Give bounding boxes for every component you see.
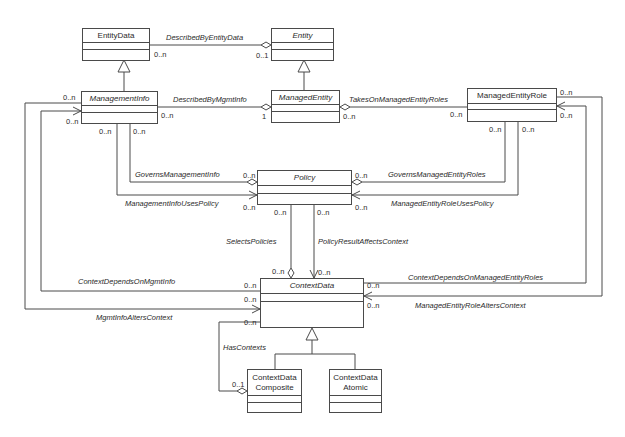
class-name: ManagedEntityRole — [468, 89, 556, 104]
class-name: Entity — [272, 29, 333, 43]
class-management-info[interactable]: ManagementInfo — [81, 91, 158, 124]
multiplicity: 0..n — [560, 111, 573, 120]
generalization-triangle-icon — [306, 328, 318, 340]
multiplicity: 0..n — [318, 268, 331, 277]
assoc-label: ManagedEntityRoleAltersContext — [415, 301, 525, 310]
multiplicity: 0..n — [244, 295, 257, 304]
multiplicity: 0..n — [272, 267, 285, 276]
multiplicity: 0..1 — [232, 380, 245, 389]
multiplicity: 0..n — [355, 171, 368, 180]
multiplicity: 0..n — [367, 281, 380, 290]
multiplicity: 0..n — [243, 171, 256, 180]
assoc-label: HasContexts — [223, 343, 266, 352]
class-name: Policy — [258, 171, 351, 186]
multiplicity: 0..n — [243, 203, 256, 212]
generalization-triangle-icon — [298, 60, 310, 72]
multiplicity: 0..n — [244, 318, 257, 327]
assoc-label: GovernsManagedEntityRoles — [388, 170, 486, 179]
class-managed-entity-role[interactable]: ManagedEntityRole — [467, 88, 557, 122]
assoc-label: TakesOnManagedEntityRoles — [349, 95, 448, 104]
multiplicity: 0..n — [244, 281, 257, 290]
multiplicity: 0..n — [489, 125, 502, 134]
class-name: EntityData — [83, 29, 149, 43]
assoc-label: MgmtInfoAltersContext — [96, 313, 172, 322]
multiplicity: 0..n — [343, 112, 356, 121]
multiplicity: 0..n — [274, 208, 287, 217]
generalization-triangle-icon — [118, 60, 130, 72]
multiplicity: 0..n — [63, 93, 76, 102]
multiplicity: 0..n — [367, 301, 380, 310]
class-name: ContextData Composite — [248, 370, 301, 396]
class-context-data-atomic[interactable]: ContextData Atomic — [329, 369, 382, 413]
assoc-label: PolicyResultAffectsContext — [318, 237, 408, 246]
class-name: ContextData — [261, 279, 363, 294]
multiplicity: 0..1 — [256, 51, 269, 60]
assoc-label: DescribedByEntityData — [166, 33, 243, 42]
multiplicity: 0..n — [66, 117, 79, 126]
multiplicity: 0..n — [560, 88, 573, 97]
assoc-label: ContextDependsOnMgmtInfo — [78, 277, 175, 286]
class-policy[interactable]: Policy — [257, 170, 352, 205]
class-entity[interactable]: Entity — [271, 28, 334, 61]
assoc-label: ManagedEntityRoleUsesPolicy — [391, 199, 494, 208]
multiplicity: 0..n — [133, 127, 146, 136]
class-name: ContextData Atomic — [330, 370, 381, 396]
diagram-connectors — [0, 0, 625, 437]
multiplicity: 0..n — [161, 111, 174, 120]
aggregation-diamond-icon — [261, 42, 271, 48]
class-context-data[interactable]: ContextData — [260, 278, 364, 328]
class-entity-data[interactable]: EntityData — [82, 28, 150, 61]
multiplicity: 0..n — [99, 127, 112, 136]
multiplicity: 0..n — [154, 50, 167, 59]
multiplicity: 1 — [262, 112, 266, 121]
assoc-label: SelectsPolicies — [226, 237, 276, 246]
class-context-data-composite[interactable]: ContextData Composite — [247, 369, 302, 413]
class-managed-entity[interactable]: ManagedEntity — [271, 90, 340, 123]
assoc-label: DescribedByMgmtInfo — [173, 95, 247, 104]
aggregation-diamond-icon — [340, 104, 350, 110]
aggregation-diamond-icon — [288, 268, 294, 278]
multiplicity: 0..n — [317, 208, 330, 217]
class-name: ManagedEntity — [272, 91, 339, 105]
assoc-label: ManagementInfoUsesPolicy — [125, 199, 218, 208]
assoc-label: ContextDependsOnManagedEntityRoles — [408, 273, 543, 282]
assoc-label: GovernsManagementInfo — [135, 170, 220, 179]
aggregation-diamond-icon — [261, 104, 271, 110]
multiplicity: 0..n — [450, 110, 463, 119]
multiplicity: 0..n — [522, 125, 535, 134]
class-name: ManagementInfo — [82, 92, 157, 106]
multiplicity: 0..n — [355, 203, 368, 212]
